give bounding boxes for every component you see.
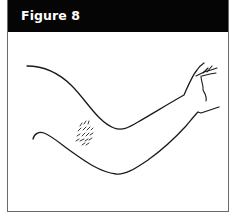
hand-detail: [196, 66, 217, 101]
arm-upper-contour: [27, 63, 204, 129]
arm-illustration: [0, 0, 233, 220]
arm-lower-contour: [33, 107, 219, 174]
rash-marks: [76, 121, 93, 145]
